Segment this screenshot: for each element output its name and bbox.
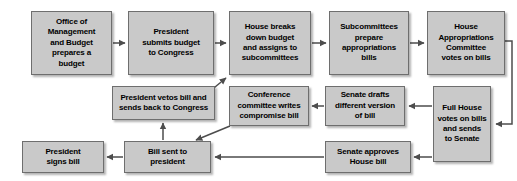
connector-conference-to-bill-sent	[196, 126, 230, 140]
node-label: President vetos bill and sends back to C…	[115, 93, 212, 114]
node-label: Subcommittees prepare appropriations bil…	[332, 22, 406, 64]
node-label: Office of Management and Budget prepares…	[34, 17, 109, 69]
node-senate-approves-house-bill[interactable]: Senate approves House bill	[325, 141, 411, 173]
node-bill-sent-to-president[interactable]: Bill sent to president	[124, 141, 211, 173]
node-house-breaks-down-budget[interactable]: House breaks down budget and assigns to …	[229, 11, 311, 75]
node-senate-drafts-different-version[interactable]: Senate drafts different version of bill	[325, 86, 405, 126]
node-president-signs-bill[interactable]: President signs bill	[22, 141, 104, 173]
node-label: Bill sent to president	[127, 147, 208, 168]
node-label: House Appropriations Committee votes on …	[430, 22, 502, 64]
node-label: Full House votes on bills and sends to S…	[436, 103, 488, 145]
node-full-house-votes-on-bills[interactable]: Full House votes on bills and sends to S…	[433, 86, 491, 162]
budget-process-flowchart: Office of Management and Budget prepares…	[0, 0, 517, 181]
node-office-of-management-and-budget[interactable]: Office of Management and Budget prepares…	[31, 11, 112, 75]
node-conference-committee-compromise-bill[interactable]: Conference committee writes compromise b…	[229, 86, 309, 126]
node-president-vetos-bill[interactable]: President vetos bill and sends back to C…	[112, 86, 215, 120]
node-label: President submits budget to Congress	[131, 27, 211, 58]
node-label: House breaks down budget and assigns to …	[232, 22, 308, 64]
node-house-appropriations-committee[interactable]: House Appropriations Committee votes on …	[427, 11, 505, 75]
node-president-submits-budget[interactable]: President submits budget to Congress	[128, 11, 214, 75]
node-subcommittees-prepare-appropriations[interactable]: Subcommittees prepare appropriations bil…	[329, 11, 409, 75]
node-label: Senate approves House bill	[328, 147, 408, 168]
node-label: Senate drafts different version of bill	[328, 90, 402, 121]
node-label: Conference committee writes compromise b…	[232, 90, 306, 121]
node-label: President signs bill	[25, 147, 101, 168]
